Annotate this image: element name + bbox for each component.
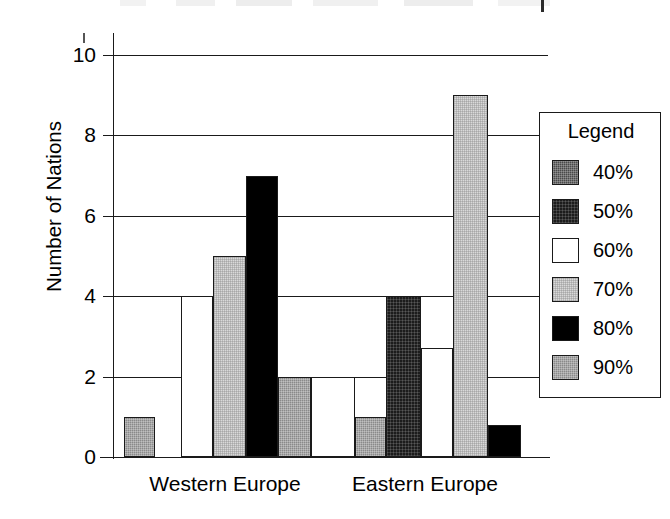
legend-item-label: 90% [593, 357, 633, 378]
y-axis-tick-label: 2 [52, 366, 96, 387]
y-axis-tick-label: 10 [52, 44, 96, 65]
y-axis-tick-label: 4 [52, 285, 96, 306]
legend-item-label: 40% [593, 162, 633, 183]
x-axis-category-label: Eastern Europe [325, 472, 525, 496]
scan-artifact-mark-left [83, 33, 85, 43]
legend-swatch-icon [552, 160, 579, 185]
bar [311, 377, 355, 457]
gridline-extension [530, 55, 548, 56]
legend-item-label: 50% [593, 201, 633, 222]
legend-item[interactable]: 70% [540, 270, 662, 309]
bar-chart: Number of Nations 1086420 Western Europe… [0, 0, 670, 519]
bar [421, 348, 453, 457]
legend-swatch-icon [552, 238, 579, 263]
scan-artifact [120, 0, 550, 6]
legend-item-label: 80% [593, 318, 633, 339]
legend-swatch-icon [552, 316, 579, 341]
bar [246, 176, 278, 457]
legend-item[interactable]: 60% [540, 231, 662, 270]
x-axis-category-label: Western Europe [125, 472, 325, 496]
legend-swatch-icon [552, 199, 579, 224]
legend-item-label: 70% [593, 279, 633, 300]
legend-title: Legend [540, 120, 662, 142]
bar [355, 417, 386, 457]
y-axis-tick-label: 0 [52, 446, 96, 467]
x-axis-line [100, 457, 550, 458]
legend-swatch-icon [552, 355, 579, 380]
bar [181, 296, 213, 457]
legend-item[interactable]: 40% [540, 153, 662, 192]
bar [124, 417, 155, 457]
gridline [113, 55, 530, 56]
legend-box: Legend 40%50%60%70%80%90% [539, 112, 661, 398]
plot-area [113, 55, 530, 457]
bar [453, 95, 488, 457]
y-axis-tick-label: 8 [52, 124, 96, 145]
legend-item-label: 60% [593, 240, 633, 261]
legend-item[interactable]: 80% [540, 309, 662, 348]
bar [278, 377, 311, 457]
legend-items: 40%50%60%70%80%90% [540, 153, 662, 387]
legend-item[interactable]: 90% [540, 348, 662, 387]
y-axis-tick-label: 6 [52, 205, 96, 226]
bar [386, 296, 421, 457]
bar [488, 425, 521, 457]
legend-swatch-icon [552, 277, 579, 302]
bar [213, 256, 246, 457]
y-axis-tick [103, 457, 114, 458]
legend-item[interactable]: 50% [540, 192, 662, 231]
scan-artifact-mark [541, 0, 544, 12]
